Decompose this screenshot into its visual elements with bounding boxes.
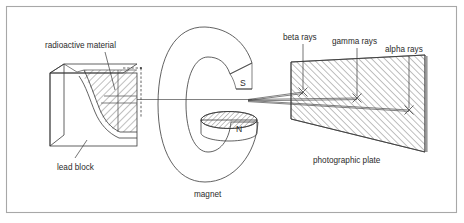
lead-block-leader — [75, 140, 87, 158]
photographic-plate-label: photographic plate — [313, 156, 381, 165]
diagram-canvas: radioactive material lead block S N magn… — [0, 0, 464, 223]
magnet-label: magnet — [194, 190, 222, 199]
alpha-rays-label: alpha rays — [385, 45, 423, 54]
magnet-body — [158, 27, 258, 182]
beta-rays-label: beta rays — [283, 33, 317, 42]
magnet-group: S N magnet — [158, 27, 260, 199]
lead-block-group: radioactive material lead block — [45, 41, 142, 172]
radioactivity-diagram: radioactive material lead block S N magn… — [0, 0, 464, 223]
cut-plane-corner-dot — [140, 67, 142, 69]
magnet-north-pole-hatch — [200, 110, 260, 131]
magnet-pole-n-label: N — [236, 124, 242, 134]
lead-block-left-face — [50, 64, 64, 146]
magnet-pole-s-label: S — [240, 78, 246, 88]
radioactive-material-label: radioactive material — [45, 41, 116, 50]
photographic-plate-group: beta rays gamma rays alpha rays photogra… — [283, 33, 430, 165]
gamma-rays-label: gamma rays — [332, 37, 377, 46]
sample-top-notch — [64, 64, 84, 72]
lead-block-label: lead block — [57, 163, 95, 172]
